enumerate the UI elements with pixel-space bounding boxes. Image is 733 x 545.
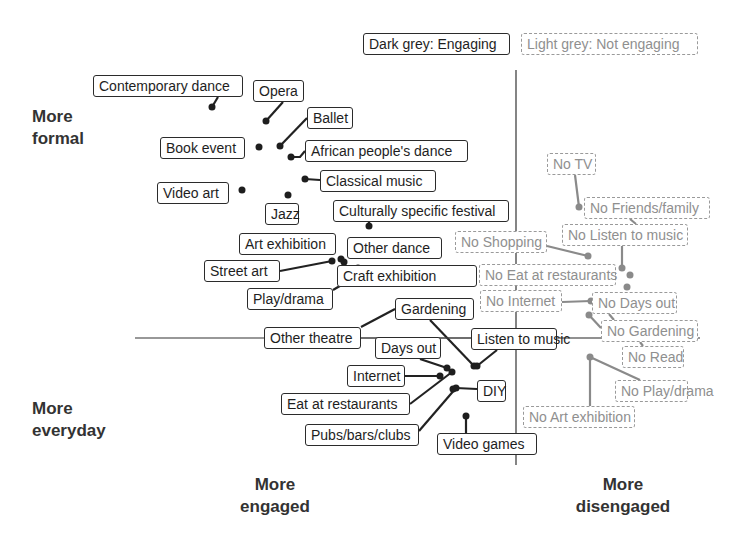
- axis-title-line: More: [32, 398, 106, 420]
- point-label: Book event: [160, 137, 245, 159]
- point-label: Eat at restaurants: [281, 393, 410, 415]
- legend-engaging: Dark grey: Engaging: [363, 33, 510, 55]
- point-label: No TV: [547, 153, 596, 175]
- point-label: No Days out: [592, 292, 677, 314]
- axis-title-more-engaged: More engaged: [220, 474, 330, 518]
- axis-title-line: disengaged: [558, 496, 688, 518]
- point-label: No Read: [622, 346, 684, 368]
- axis-title-line: everyday: [32, 420, 106, 442]
- point-label: No Play/drama: [615, 380, 688, 402]
- point-label: Contemporary dance: [93, 75, 243, 97]
- axis-title-line: formal: [32, 128, 84, 150]
- positioning-chart: Dark grey: Engaging Light grey: Not enga…: [0, 0, 733, 545]
- axis-title-more-everyday: More everyday: [32, 398, 106, 442]
- point-label: Internet: [347, 365, 405, 387]
- point-label: No Art exhibition: [523, 406, 635, 428]
- point-label: Other theatre: [264, 327, 361, 349]
- point-label: Video art: [157, 182, 229, 204]
- axis-title-more-disengaged: More disengaged: [558, 474, 688, 518]
- point-label: Gardening: [395, 298, 474, 320]
- axis-title-line: More: [220, 474, 330, 496]
- point-label: African people's dance: [305, 140, 468, 162]
- point-label: Days out: [375, 337, 441, 359]
- point-label: DIY: [477, 380, 506, 402]
- point-label: No Eat at restaurants: [479, 264, 616, 286]
- point-label: Ballet: [307, 107, 353, 129]
- point-label: Listen to music: [471, 328, 557, 350]
- point-label: Play/drama: [247, 288, 333, 310]
- point-label: No Shopping: [455, 231, 547, 253]
- axis-title-more-formal: More formal: [32, 106, 84, 150]
- point-label: Classical music: [320, 170, 436, 192]
- point-label: Craft exhibition: [337, 265, 477, 287]
- point-label: Video games: [437, 433, 537, 455]
- axis-title-line: engaged: [220, 496, 330, 518]
- point-label: Art exhibition: [239, 233, 336, 255]
- point-label: Culturally specific festival: [333, 200, 509, 222]
- axis-title-line: More: [32, 106, 84, 128]
- point-label: Pubs/bars/clubs: [305, 424, 419, 446]
- point-label: Street art: [204, 260, 280, 282]
- point-label: Opera: [253, 80, 304, 102]
- point-label: No Gardening: [601, 320, 698, 342]
- point-label: Jazz: [265, 203, 299, 225]
- point-label: Other dance: [347, 237, 442, 259]
- point-label: No Listen to music: [562, 224, 688, 246]
- point-label: No Friends/family: [584, 197, 710, 219]
- legend-not-engaging: Light grey: Not engaging: [521, 33, 698, 55]
- point-label: No Internet: [480, 290, 562, 312]
- axis-title-line: More: [558, 474, 688, 496]
